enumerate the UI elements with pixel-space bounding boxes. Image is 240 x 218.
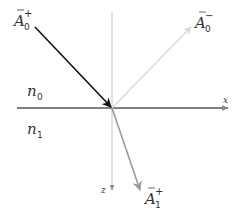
reflected-vector-label: A 0 −: [193, 10, 213, 34]
svg-text:−: −: [205, 10, 213, 21]
transmitted-vector: [112, 108, 140, 190]
diagram-canvas: A 0 + A 0 − A 1 + n 0 n 1 x z: [0, 0, 240, 218]
svg-text:0: 0: [37, 92, 43, 102]
svg-text:0: 0: [24, 22, 30, 32]
svg-text:+: +: [155, 186, 163, 197]
reflected-vector: [112, 27, 191, 108]
svg-text:1: 1: [37, 130, 43, 140]
transmitted-vector-label: A 1 +: [143, 186, 163, 210]
incident-vector: [35, 27, 111, 107]
incident-vector-label: A 0 +: [12, 8, 32, 32]
medium-label-upper: n 0: [27, 82, 43, 102]
svg-text:+: +: [24, 8, 32, 19]
medium-label-lower: n 1: [27, 120, 43, 140]
x-axis-label: x: [223, 95, 228, 105]
svg-text:1: 1: [155, 200, 161, 210]
svg-text:n: n: [27, 120, 37, 138]
svg-text:n: n: [27, 82, 37, 100]
svg-text:0: 0: [205, 24, 211, 34]
z-axis-label: z: [100, 185, 106, 195]
